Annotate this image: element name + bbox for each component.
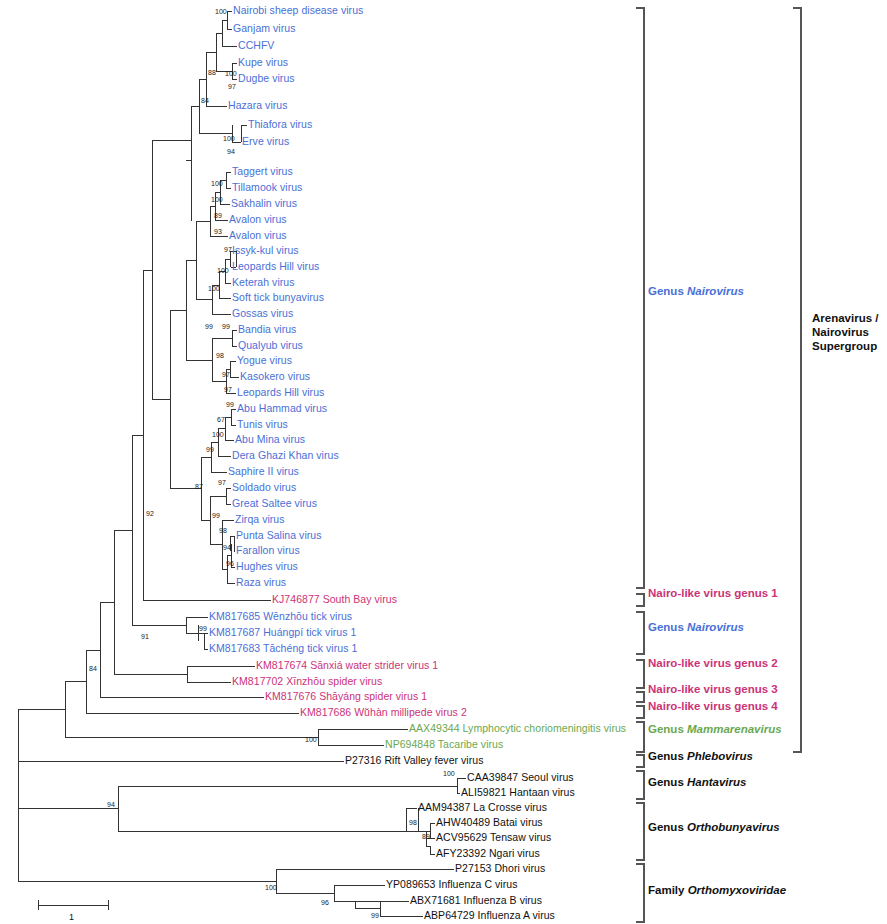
bootstrap-value: 99 bbox=[206, 446, 214, 453]
taxon-label: KM817674 Sānxiá water strider virus 1 bbox=[256, 660, 438, 671]
taxon-label: YP089653 Influenza C virus bbox=[386, 879, 517, 890]
taxon-label: KM817687 Huángpí tick virus 1 bbox=[209, 627, 356, 638]
bootstrap-value: 67 bbox=[217, 416, 225, 423]
genus-label-name: Phlebovirus bbox=[687, 750, 753, 762]
bootstrap-value: 91 bbox=[141, 633, 149, 640]
taxon-label: Bandia virus bbox=[238, 324, 296, 335]
bootstrap-value: 94 bbox=[107, 801, 115, 808]
taxon-label: Taggert virus bbox=[232, 166, 293, 177]
bootstrap-value: 97 bbox=[224, 246, 232, 253]
bootstrap-value: 84 bbox=[201, 97, 209, 104]
scale-bar-label: 1 bbox=[69, 912, 74, 922]
bootstrap-value: 99 bbox=[222, 323, 230, 330]
taxon-label: Hughes virus bbox=[236, 561, 298, 572]
taxon-label: Yogue virus bbox=[237, 355, 292, 366]
bootstrap-value: 99 bbox=[205, 323, 213, 330]
taxon-label: Tunis virus bbox=[237, 419, 288, 430]
genus-label: Genus Orthobunyavirus bbox=[648, 821, 780, 834]
taxon-label: Leopards Hill virus bbox=[237, 387, 324, 398]
taxon-label: Qualyub virus bbox=[238, 340, 303, 351]
taxon-label: Soldado virus bbox=[232, 482, 296, 493]
bootstrap-value: 97 bbox=[218, 479, 226, 486]
bootstrap-value: 100 bbox=[265, 884, 277, 891]
taxon-label: Sakhalin virus bbox=[231, 198, 297, 209]
genus-label-prefix: Genus bbox=[648, 285, 687, 297]
bootstrap-value: 96 bbox=[226, 560, 234, 567]
taxon-label: P27153 Dhori virus bbox=[455, 863, 545, 874]
genus-label-prefix: Genus bbox=[648, 821, 687, 833]
taxon-label: CAA39847 Seoul virus bbox=[467, 772, 574, 783]
taxon-label: Dera Ghazi Khan virus bbox=[232, 450, 339, 461]
bootstrap-value: 87 bbox=[195, 483, 203, 490]
taxon-label: Ganjam virus bbox=[233, 23, 295, 34]
taxon-label: Kasokero virus bbox=[240, 371, 310, 382]
genus-label: Nairo-like virus genus 1 bbox=[648, 587, 778, 600]
taxon-label: ALI59821 Hantaan virus bbox=[461, 787, 575, 798]
taxon-label: AAM94387 La Crosse virus bbox=[418, 802, 547, 813]
taxon-label: Abu Mina virus bbox=[235, 434, 305, 445]
taxon-label: AHW40489 Batai virus bbox=[436, 817, 543, 828]
bootstrap-value: 100 bbox=[215, 8, 227, 15]
genus-label: Nairo-like virus genus 3 bbox=[648, 683, 778, 696]
bootstrap-value: 98 bbox=[216, 352, 224, 359]
bootstrap-value: 99 bbox=[371, 912, 379, 919]
taxon-label: Zirqa virus bbox=[235, 514, 285, 525]
bootstrap-value: 88 bbox=[208, 69, 216, 76]
bootstrap-value: 96 bbox=[321, 899, 329, 906]
taxon-label: Dugbe virus bbox=[238, 73, 295, 84]
bootstrap-value: 93 bbox=[214, 228, 222, 235]
taxon-label: AAX49344 Lymphocytic choriomeningitis vi… bbox=[409, 723, 626, 734]
bootstrap-value: 99 bbox=[212, 512, 220, 519]
bootstrap-value: 89 bbox=[214, 212, 222, 219]
bootstrap-value: 100 bbox=[225, 70, 237, 77]
bootstrap-value: 99 bbox=[226, 401, 234, 408]
bootstrap-value: 92 bbox=[146, 510, 154, 517]
taxon-label: KM817686 Wŭhàn millipede virus 2 bbox=[300, 707, 467, 718]
bootstrap-value: 100 bbox=[305, 736, 317, 743]
genus-label-name: Orthobunyavirus bbox=[687, 821, 780, 833]
genus-label: Nairo-like virus genus 4 bbox=[648, 700, 778, 713]
bootstrap-value: 99 bbox=[199, 625, 207, 632]
taxon-label: Saphire II virus bbox=[228, 466, 299, 477]
supergroup-bracket bbox=[793, 8, 801, 752]
genus-label-prefix: Genus bbox=[648, 621, 687, 633]
taxon-label: KM817685 Wēnzhōu tick virus bbox=[209, 611, 352, 622]
bootstrap-value: 98 bbox=[219, 527, 227, 534]
genus-label-prefix: Genus bbox=[648, 776, 687, 788]
genus-label: Family Orthomyxoviridae bbox=[648, 884, 786, 897]
taxon-label: Tillamook virus bbox=[232, 182, 302, 193]
bootstrap-value: 100 bbox=[211, 196, 223, 203]
taxon-label: AFY23392 Ngari virus bbox=[436, 848, 540, 859]
genus-label-name: Nairovirus bbox=[687, 285, 744, 297]
genus-label-name: Mammarenavirus bbox=[687, 723, 782, 735]
genus-label: Genus Hantavirus bbox=[648, 776, 746, 789]
taxon-label: KM817676 Shāyáng spider virus 1 bbox=[265, 691, 427, 702]
taxon-label: P27316 Rift Valley fever virus bbox=[345, 755, 483, 766]
taxon-label: Issyk-kul virus bbox=[232, 245, 299, 256]
taxon-label: ABP64729 Influenza A virus bbox=[424, 910, 555, 921]
taxon-label: KM817702 Xīnzhōu spider virus bbox=[232, 676, 382, 687]
genus-label-name: Nairo-like virus genus 3 bbox=[648, 683, 778, 695]
supergroup-label: Arenavirus / Nairovirus Supergroup bbox=[812, 311, 878, 353]
taxon-label: Hazara virus bbox=[228, 100, 288, 111]
taxon-label: Nairobi sheep disease virus bbox=[233, 5, 363, 16]
bootstrap-value: 84 bbox=[89, 665, 97, 672]
taxon-label: Punta Salina virus bbox=[236, 530, 322, 541]
genus-label-name: Nairovirus bbox=[687, 621, 744, 633]
bootstrap-value: 100 bbox=[212, 431, 224, 438]
bootstrap-value: 94 bbox=[227, 148, 235, 155]
taxon-label: ABX71681 Influenza B virus bbox=[410, 895, 542, 906]
genus-label-name: Nairo-like virus genus 4 bbox=[648, 700, 778, 712]
taxon-label: Great Saltee virus bbox=[232, 498, 317, 509]
bootstrap-value: 100 bbox=[443, 770, 455, 777]
bootstrap-value: 97 bbox=[222, 371, 230, 378]
genus-label-name: Nairo-like virus genus 1 bbox=[648, 587, 778, 599]
genus-label: Genus Nairovirus bbox=[648, 285, 744, 298]
genus-label-prefix: Family bbox=[648, 884, 688, 896]
taxon-label: Avalon virus bbox=[229, 214, 287, 225]
genus-label: Nairo-like virus genus 2 bbox=[648, 657, 778, 670]
taxon-label: NP694848 Tacaribe virus bbox=[385, 739, 503, 750]
taxon-label: Soft tick bunyavirus bbox=[232, 292, 324, 303]
taxon-label: Avalon virus bbox=[229, 230, 287, 241]
bootstrap-value: 100 bbox=[208, 285, 220, 292]
